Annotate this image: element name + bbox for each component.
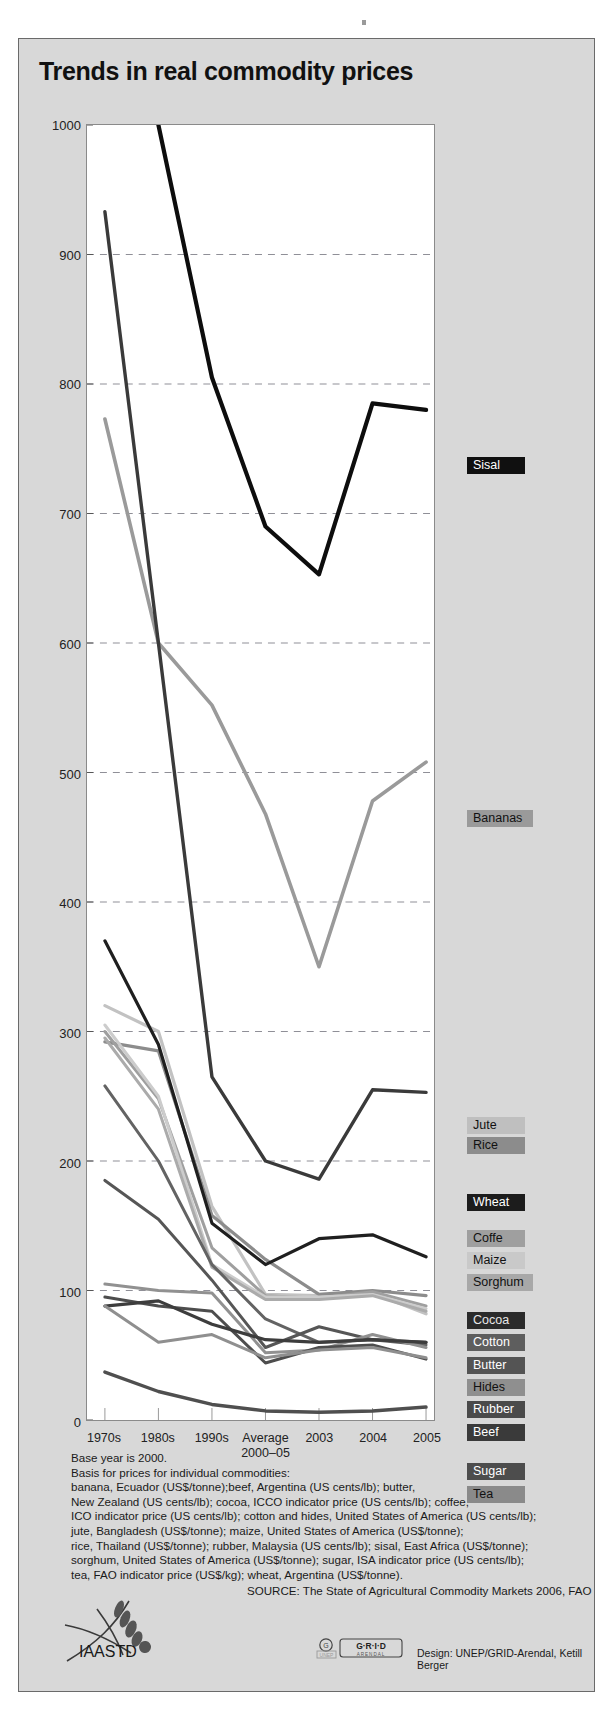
series-line-sorghum	[105, 1038, 426, 1311]
infographic-panel: Trends in real commodity prices 01002003…	[18, 38, 595, 1692]
svg-text:G: G	[323, 1642, 328, 1649]
x-axis-tick-label: 1970s	[87, 1431, 121, 1446]
y-axis-tick-label: 900	[35, 247, 81, 262]
y-axis-tick-label: 200	[35, 1155, 81, 1170]
page-title: Trends in real commodity prices	[39, 57, 413, 86]
y-axis-tick-label: 400	[35, 896, 81, 911]
series-line-bananas	[105, 419, 426, 967]
legend-item-rice[interactable]: Rice	[467, 1137, 525, 1154]
legend-item-label: Hides	[473, 1380, 505, 1394]
note-line: tea, FAO indicator price (US$/kg); wheat…	[71, 1568, 571, 1583]
iaastd-label: IAASTD	[79, 1643, 137, 1661]
note-line: Basis for prices for individual commodit…	[71, 1466, 571, 1481]
series-line-sisal	[158, 125, 426, 574]
legend-item-jute[interactable]: Jute	[467, 1117, 525, 1134]
legend-item-label: Maize	[473, 1253, 506, 1267]
x-axis-tick-label: 2003	[305, 1431, 333, 1446]
chart-legend: SisalBananasJuteRiceWheatCoffeMaizeSorgh…	[467, 124, 587, 1434]
svg-text:G·R·I·D: G·R·I·D	[356, 1641, 386, 1651]
y-axis-tick-label: 700	[35, 507, 81, 522]
svg-text:ARENDAL: ARENDAL	[357, 1652, 386, 1657]
legend-item-sisal[interactable]: Sisal	[467, 457, 525, 474]
note-line: New Zealand (US cents/lb); cocoa, ICCO i…	[71, 1495, 571, 1510]
note-line: Base year is 2000.	[71, 1451, 571, 1466]
note-line: ICO indicator price (US cents/lb); cotto…	[71, 1509, 571, 1524]
y-axis-tick-label: 800	[35, 377, 81, 392]
x-axis-tick-label: 1980s	[141, 1431, 175, 1446]
grid-arendal-logo-icon: G UNEP G·R·I·D ARENDAL	[315, 1637, 411, 1659]
scan-speck	[362, 20, 366, 25]
series-line-tea	[105, 1306, 426, 1358]
series-line-rice	[105, 1042, 426, 1296]
svg-text:UNEP: UNEP	[320, 1652, 335, 1658]
notes-block: Base year is 2000.Basis for prices for i…	[71, 1451, 571, 1582]
chart-plot-area	[86, 124, 435, 1421]
y-axis-tick-label: 100	[35, 1285, 81, 1300]
y-axis-tick-label: 0	[35, 1415, 81, 1430]
note-line: rice, Thailand (US$/tonne); rubber, Mala…	[71, 1539, 571, 1554]
legend-item-coffe[interactable]: Coffe	[467, 1230, 525, 1247]
legend-item-label: Cotton	[473, 1335, 510, 1349]
legend-item-label: Rubber	[473, 1402, 514, 1416]
legend-item-hides[interactable]: Hides	[467, 1379, 525, 1396]
legend-item-label: Wheat	[473, 1195, 509, 1209]
x-axis-tick-label: 2004	[359, 1431, 387, 1446]
y-axis-tick-label: 500	[35, 766, 81, 781]
poster-page: Trends in real commodity prices 01002003…	[0, 0, 613, 1730]
legend-item-label: Sorghum	[473, 1275, 524, 1289]
note-line: jute, Bangladesh (US$/tonne); maize, Uni…	[71, 1524, 571, 1539]
x-axis-tick-label: 2005	[413, 1431, 441, 1446]
y-axis-tick-label: 300	[35, 1025, 81, 1040]
note-line: sorghum, United States of America (US$/t…	[71, 1553, 571, 1568]
legend-item-label: Butter	[473, 1358, 506, 1372]
legend-item-sorghum[interactable]: Sorghum	[467, 1274, 533, 1291]
line-chart-svg	[87, 125, 434, 1420]
y-axis: 01002003004005006007008009001000	[33, 124, 81, 1424]
legend-item-label: Bananas	[473, 811, 522, 825]
legend-item-label: Coffe	[473, 1231, 503, 1245]
legend-item-wheat[interactable]: Wheat	[467, 1194, 525, 1211]
legend-item-rubber[interactable]: Rubber	[467, 1401, 525, 1418]
legend-item-beef[interactable]: Beef	[467, 1424, 525, 1441]
legend-item-label: Rice	[473, 1138, 498, 1152]
note-line: banana, Ecuador (US$/tonne);beef, Argent…	[71, 1480, 571, 1495]
design-credit: Design: UNEP/GRID-Arendal, Ketill Berger	[417, 1647, 594, 1671]
source-line: SOURCE: The State of Agricultural Commod…	[247, 1584, 592, 1597]
legend-item-label: Sisal	[473, 458, 500, 472]
legend-item-maize[interactable]: Maize	[467, 1252, 525, 1269]
legend-item-label: Jute	[473, 1118, 497, 1132]
y-axis-tick-label: 600	[35, 636, 81, 651]
y-axis-tick-label: 1000	[35, 118, 81, 133]
legend-item-cocoa[interactable]: Cocoa	[467, 1312, 525, 1329]
legend-item-butter[interactable]: Butter	[467, 1357, 525, 1374]
x-axis-tick-label: 1990s	[195, 1431, 229, 1446]
legend-item-label: Cocoa	[473, 1313, 509, 1327]
legend-item-bananas[interactable]: Bananas	[467, 810, 533, 827]
legend-item-label: Beef	[473, 1425, 499, 1439]
series-line-sugar	[105, 1372, 426, 1412]
legend-item-cotton[interactable]: Cotton	[467, 1334, 525, 1351]
